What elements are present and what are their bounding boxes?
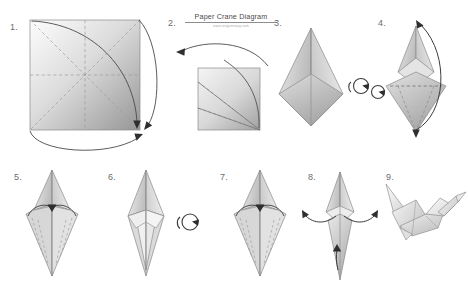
step7-top-right <box>260 170 278 210</box>
step-1-figure <box>6 12 171 157</box>
step6-top-left <box>128 170 146 216</box>
step-5-figure <box>8 166 104 284</box>
step8-arrowhead-left <box>302 210 309 218</box>
rotate-over-icon <box>349 79 369 94</box>
step-number-2: 2. <box>168 18 176 28</box>
step4-arrowhead-top <box>416 20 424 29</box>
page-title: Paper Crane Diagram <box>185 12 277 23</box>
diagram-canvas: Paper Crane Diagram www.origamiway.com 1… <box>0 0 468 287</box>
fold-arrowhead-2 <box>144 121 152 130</box>
step4-rotate-icon <box>372 86 386 99</box>
step6-rotate-icon <box>177 214 199 230</box>
fold-arrow-outer-right <box>139 20 157 125</box>
step5-top-right <box>52 170 70 210</box>
step-4-figure <box>372 14 468 146</box>
step5-left-wing <box>26 206 52 276</box>
step8-top-right <box>340 172 354 212</box>
step8-arrowhead-right <box>371 210 378 218</box>
diagram-title-block: Paper Crane Diagram www.origamiway.com <box>185 12 277 28</box>
step-6-figure <box>102 166 212 284</box>
step5-top-left <box>34 170 52 210</box>
fold-arrow-bottom <box>30 131 138 150</box>
crane-head <box>456 192 466 202</box>
step-7-figure <box>212 166 308 284</box>
step-2-figure <box>168 30 276 142</box>
step7-right-wing <box>260 206 286 276</box>
step5-right-wing <box>52 206 78 276</box>
step4-arrowhead-bottom <box>412 129 420 138</box>
step2-transition-arrow <box>184 44 268 66</box>
step-9-figure <box>382 178 468 258</box>
step-8-figure <box>296 166 392 286</box>
step-3-figure <box>265 22 375 144</box>
step6-top-right <box>146 170 164 216</box>
page-subtitle: www.origamiway.com <box>185 24 277 28</box>
step2-paper <box>198 68 260 130</box>
step7-top-left <box>242 170 260 210</box>
step2-arrowhead <box>176 48 185 56</box>
step7-left-wing <box>234 206 260 276</box>
step8-top-left <box>326 172 340 212</box>
